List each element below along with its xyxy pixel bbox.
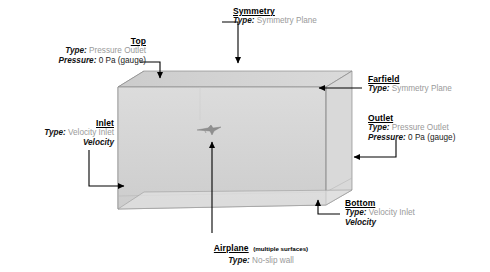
label-symmetry-type-key: Type: bbox=[233, 16, 255, 25]
label-airplane-type-key: Type: bbox=[228, 256, 250, 265]
label-inlet-type-key: Type: bbox=[44, 128, 66, 137]
label-bottom-type-key: Type: bbox=[345, 208, 367, 217]
label-top-pressure-value: 0 Pa (gauge) bbox=[99, 56, 146, 65]
label-bottom: Bottom Type: Velocity Inlet Velocity bbox=[345, 198, 475, 228]
label-top: Top Type: Pressure Outlet Pressure: 0 Pa… bbox=[6, 36, 146, 66]
label-top-type-value: Pressure Outlet bbox=[89, 46, 146, 55]
label-symmetry-type-value: Symmetry Plane bbox=[257, 16, 317, 25]
diagram-canvas: Top Type: Pressure Outlet Pressure: 0 Pa… bbox=[0, 0, 490, 272]
label-top-type-key: Type: bbox=[65, 46, 87, 55]
label-inlet-velocity: Velocity bbox=[2, 138, 114, 148]
label-top-type: Type: Pressure Outlet bbox=[6, 46, 146, 56]
label-bottom-type-value: Velocity Inlet bbox=[369, 208, 415, 217]
box-bottom-face bbox=[118, 190, 352, 209]
label-bottom-velocity: Velocity bbox=[345, 218, 475, 228]
label-airplane: Airplane (multiple surfaces) Type: No-sl… bbox=[186, 236, 336, 266]
leader-symmetry bbox=[222, 22, 238, 63]
label-inlet-title: Inlet bbox=[2, 118, 114, 128]
label-farfield-type-value: Symmetry Plane bbox=[392, 84, 452, 93]
box-top-face bbox=[118, 71, 352, 87]
label-outlet-type-key: Type: bbox=[368, 123, 390, 132]
label-airplane-type: Type: No-slip wall bbox=[186, 256, 336, 266]
label-bottom-title: Bottom bbox=[345, 198, 475, 208]
label-outlet-type: Type: Pressure Outlet bbox=[368, 123, 490, 133]
label-bottom-type: Type: Velocity Inlet bbox=[345, 208, 475, 218]
label-symmetry: Symmetry Type: Symmetry Plane bbox=[233, 6, 363, 26]
label-symmetry-type: Type: Symmetry Plane bbox=[233, 16, 363, 26]
label-farfield-type-key: Type: bbox=[368, 84, 390, 93]
label-inlet: Inlet Type: Velocity Inlet Velocity bbox=[2, 118, 114, 148]
label-inlet-type-value: Velocity Inlet bbox=[68, 128, 114, 137]
label-outlet-pressure: Pressure: 0 Pa (gauge) bbox=[368, 133, 490, 143]
label-airplane-heading: Airplane (multiple surfaces) bbox=[186, 236, 336, 256]
label-farfield-type: Type: Symmetry Plane bbox=[368, 84, 490, 94]
label-top-pressure-key: Pressure: bbox=[59, 56, 97, 65]
label-symmetry-title: Symmetry bbox=[233, 6, 363, 16]
label-outlet-title: Outlet bbox=[368, 113, 490, 123]
label-outlet-type-value: Pressure Outlet bbox=[392, 123, 449, 132]
label-inlet-type: Type: Velocity Inlet bbox=[2, 128, 114, 138]
label-farfield-title: Farfield bbox=[368, 74, 490, 84]
label-airplane-note: (multiple surfaces) bbox=[253, 245, 308, 252]
label-top-pressure: Pressure: 0 Pa (gauge) bbox=[6, 56, 146, 66]
label-top-title: Top bbox=[6, 36, 146, 46]
label-airplane-type-value: No-slip wall bbox=[252, 256, 294, 265]
label-airplane-title: Airplane bbox=[214, 243, 249, 253]
label-outlet-pressure-value: 0 Pa (gauge) bbox=[408, 133, 455, 142]
label-outlet-pressure-key: Pressure: bbox=[368, 133, 406, 142]
label-outlet: Outlet Type: Pressure Outlet Pressure: 0… bbox=[368, 113, 490, 143]
label-farfield: Farfield Type: Symmetry Plane bbox=[368, 74, 490, 94]
